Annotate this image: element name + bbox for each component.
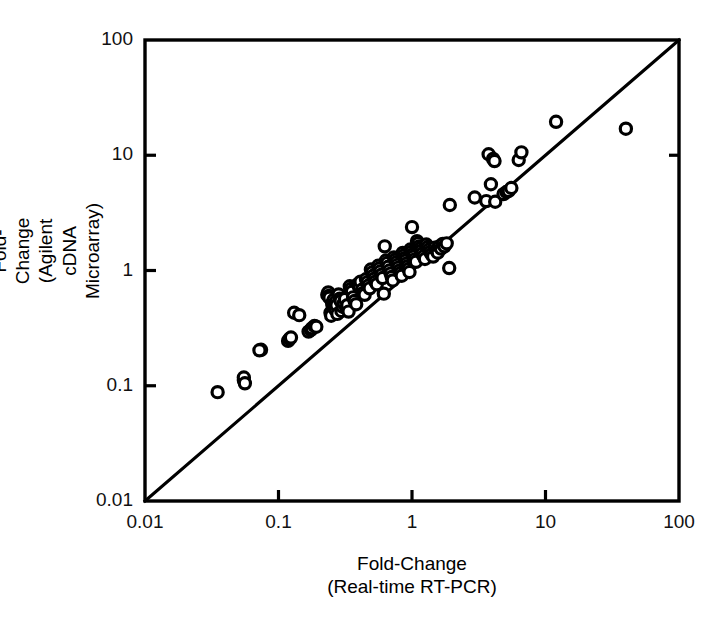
y-tick-label: 100 [37, 28, 133, 50]
y-axis-label: Fold-Change (Agilent cDNA Microarray) [14, 0, 78, 501]
tick-marks [145, 155, 679, 501]
x-tick-label: 1 [367, 511, 457, 533]
x-tick-label: 10 [501, 511, 591, 533]
y-axis-label-line1: Fold-Change [0, 202, 34, 298]
x-axis-label: Fold-Change (Real-time RT-PCR) [145, 552, 679, 598]
y-axis-label-line2: (Agilent cDNA Microarray) [34, 202, 104, 298]
x-tick-label: 100 [634, 511, 722, 533]
y-tick-label: 0.01 [37, 489, 133, 511]
x-axis-label-line2: (Real-time RT-PCR) [145, 575, 679, 598]
data-points [212, 116, 631, 398]
y-tick-label: 1 [37, 259, 133, 281]
y-tick-label: 10 [37, 143, 133, 165]
x-axis-label-line1: Fold-Change [145, 552, 679, 575]
x-tick-label: 0.1 [234, 511, 324, 533]
y-tick-label: 0.1 [37, 374, 133, 396]
x-tick-label: 0.01 [100, 511, 190, 533]
scatter-plot-figure: Fold-Change (Agilent cDNA Microarray) Fo… [0, 0, 722, 621]
